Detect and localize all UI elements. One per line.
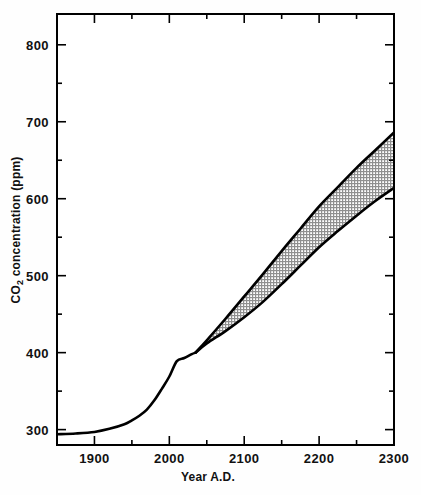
- y-axis-title-main: CO: [9, 285, 23, 303]
- y-tick-label: 700: [26, 115, 49, 130]
- x-axis-tick-labels: 19002000210022002300: [79, 451, 409, 466]
- co2-projection-chart: 300400500600700800 19002000210022002300 …: [0, 0, 421, 495]
- x-tick-label: 1900: [79, 451, 110, 466]
- x-tick-label: 2000: [154, 451, 185, 466]
- x-tick-label: 2100: [229, 451, 260, 466]
- y-tick-label: 300: [26, 423, 49, 438]
- y-axis-title: CO2 concentration (ppm): [9, 157, 25, 304]
- y-tick-label: 800: [26, 38, 49, 53]
- plot-area-background: [57, 14, 394, 445]
- x-axis-title: Year A.D.: [181, 470, 235, 484]
- y-tick-label: 600: [26, 192, 49, 207]
- y-axis-tick-labels: 300400500600700800: [26, 38, 49, 438]
- figure-container: 300400500600700800 19002000210022002300 …: [0, 0, 421, 495]
- y-tick-label: 400: [26, 346, 49, 361]
- x-tick-label: 2300: [379, 451, 410, 466]
- y-axis-title-rest: concentration (ppm): [9, 157, 23, 280]
- x-tick-label: 2200: [304, 451, 335, 466]
- y-tick-label: 500: [26, 269, 49, 284]
